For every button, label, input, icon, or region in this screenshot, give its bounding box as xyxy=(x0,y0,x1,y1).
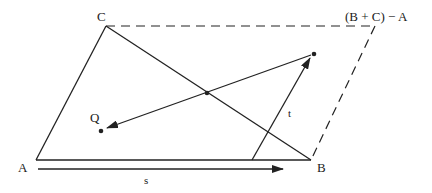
diagram-svg xyxy=(0,0,432,193)
label-t: t xyxy=(288,108,291,119)
point-m-dot xyxy=(205,91,210,96)
parallelogram-diagram: C A B (B + C) − A Q s t xyxy=(0,0,432,193)
label-a: A xyxy=(18,161,27,174)
label-s: s xyxy=(144,175,148,186)
point-q-dot xyxy=(99,129,104,134)
point-p-dot xyxy=(312,52,317,57)
label-b: B xyxy=(317,161,326,174)
label-q: Q xyxy=(90,111,99,124)
label-b-plus-c-minus-a: (B + C) − A xyxy=(345,10,407,23)
dashed-edge-d-b xyxy=(311,26,375,160)
edge-a-c xyxy=(36,26,106,160)
label-c: C xyxy=(97,10,106,23)
vector-p-to-q-arrow xyxy=(107,55,311,128)
